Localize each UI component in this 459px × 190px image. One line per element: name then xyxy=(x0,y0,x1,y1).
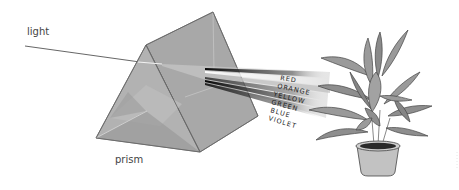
plant-icon xyxy=(309,30,432,145)
light-ray xyxy=(25,46,140,62)
pot-icon xyxy=(356,141,400,176)
prism-diagram: RED ORANGE YELLOW GREEN BLUE VIOLET ligh… xyxy=(0,0,459,190)
diagram-canvas: RED ORANGE YELLOW GREEN BLUE VIOLET ligh… xyxy=(0,0,459,190)
prism-label: prism xyxy=(115,154,143,165)
light-label: light xyxy=(27,26,49,37)
